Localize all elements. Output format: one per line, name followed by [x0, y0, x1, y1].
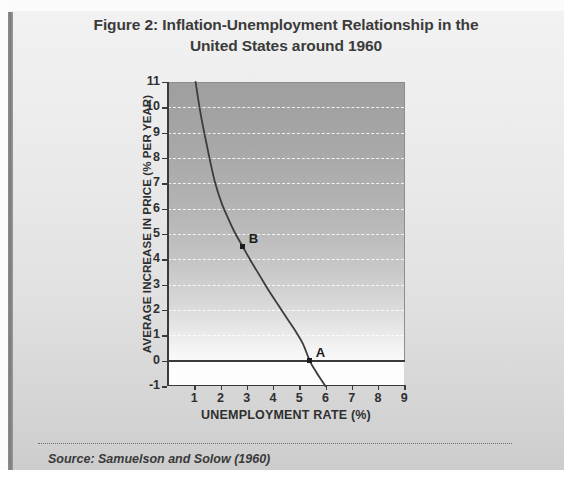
- y-tick: [162, 335, 167, 336]
- data-point-label-b: B: [249, 231, 258, 246]
- figure-page: Figure 2: Inflation-Unemployment Relatio…: [0, 0, 564, 491]
- y-tick: [162, 361, 167, 362]
- page-bottom-margin: [0, 470, 564, 491]
- y-tick: [162, 259, 167, 260]
- phillips-curve-line: [0, 0, 564, 491]
- phillips-curve-chart: -101234567891011 123456789 AVERAGE INCRE…: [0, 0, 564, 491]
- y-tick: [162, 133, 167, 134]
- y-tick: [162, 310, 167, 311]
- y-tick: [162, 107, 167, 108]
- source-caption: Source: Samuelson and Solow (1960): [48, 452, 270, 466]
- y-tick: [162, 386, 167, 387]
- footer-divider: [38, 443, 512, 444]
- y-tick: [162, 285, 167, 286]
- y-tick: [162, 158, 167, 159]
- data-point-label-a: A: [316, 345, 325, 360]
- data-point-b: [240, 244, 245, 249]
- y-tick: [162, 234, 167, 235]
- y-tick: [162, 183, 167, 184]
- data-point-a: [307, 358, 312, 363]
- y-tick: [162, 209, 167, 210]
- y-tick: [162, 82, 167, 83]
